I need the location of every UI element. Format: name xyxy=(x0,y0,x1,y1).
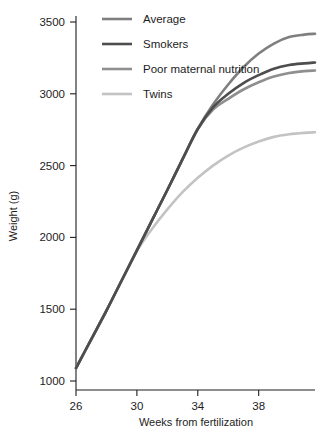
series-line-average xyxy=(76,34,315,368)
y-axis-title: Weight (g) xyxy=(7,191,19,242)
series-line-twins xyxy=(76,132,315,368)
legend-label-smokers: Smokers xyxy=(143,38,189,50)
y-tick-label: 2000 xyxy=(39,231,65,243)
legend-label-average: Average xyxy=(143,13,186,25)
fetal-growth-chart: 100015002000250030003500 26303438 Averag… xyxy=(0,0,323,432)
chart-canvas: 100015002000250030003500 26303438 Averag… xyxy=(0,0,323,432)
legend-label-twins: Twins xyxy=(143,88,173,100)
y-tick-label: 3000 xyxy=(39,88,65,100)
legend-label-poor-maternal-nutrition: Poor maternal nutrition xyxy=(143,63,259,75)
x-tick-label: 30 xyxy=(130,400,143,412)
y-tick-label: 1000 xyxy=(39,375,65,387)
series-line-poor-maternal-nutrition xyxy=(76,71,315,369)
x-tick-label: 34 xyxy=(191,400,204,412)
y-tick-label: 1500 xyxy=(39,303,65,315)
y-axis-ticks: 100015002000250030003500 xyxy=(39,16,76,387)
x-axis-title: Weeks from fertilization xyxy=(139,416,253,428)
y-tick-label: 2500 xyxy=(39,160,65,172)
x-tick-label: 26 xyxy=(70,400,83,412)
series-line-smokers xyxy=(76,63,315,369)
data-series-group xyxy=(76,34,315,368)
y-tick-label: 3500 xyxy=(39,16,65,28)
x-axis-ticks: 26303438 xyxy=(70,390,265,412)
x-tick-label: 38 xyxy=(252,400,265,412)
